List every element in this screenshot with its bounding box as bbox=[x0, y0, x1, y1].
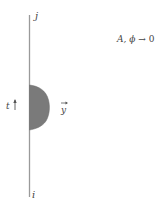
top-endpoint-label: j bbox=[35, 11, 38, 21]
diagram-graphics bbox=[0, 0, 166, 210]
condition-value: 0 bbox=[149, 34, 155, 44]
shaded-region bbox=[30, 85, 50, 130]
time-label: t bbox=[6, 101, 10, 111]
vector-y-label: y bbox=[61, 105, 66, 115]
bottom-endpoint-label: i bbox=[32, 190, 35, 200]
condition-label: A, ϕ → 0 bbox=[117, 34, 154, 44]
worldline-diagram: j i A, ϕ → 0 t y bbox=[0, 0, 166, 210]
time-arrowhead-icon bbox=[13, 99, 16, 103]
condition-arrow-icon: → bbox=[138, 34, 146, 44]
condition-vars: A, ϕ bbox=[117, 34, 135, 44]
